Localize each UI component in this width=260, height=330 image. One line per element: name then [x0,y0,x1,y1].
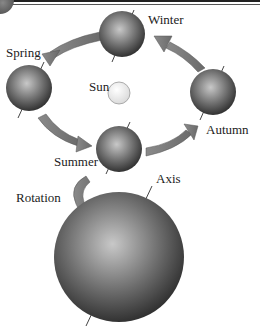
globe-summer [96,122,142,174]
label-winter: Winter [148,12,184,28]
sun [108,82,130,104]
globe-winter [99,10,145,62]
label-spring: Spring [6,45,41,61]
label-rotation: Rotation [16,190,61,206]
label-axis: Axis [156,171,181,187]
label-sun: Sun [89,79,109,95]
globe-spring [6,62,52,118]
label-summer: Summer [54,154,98,170]
globe-autumn [190,66,236,120]
label-autumn: Autumn [206,122,249,138]
globe-earth-large [54,186,184,326]
